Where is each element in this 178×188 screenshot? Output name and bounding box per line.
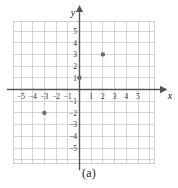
data-point	[101, 52, 105, 56]
axes	[7, 5, 168, 170]
coordinate-plane-figure: −5−4−3−2−11234554321−1−2−3−4−5 y x (a)	[0, 0, 178, 188]
x-tick-label: 4	[124, 92, 128, 101]
x-tick-label: −2	[52, 92, 60, 101]
x-tick-label: −5	[17, 92, 25, 101]
data-point	[42, 111, 46, 115]
data-point	[77, 76, 81, 80]
figure-caption: (a)	[0, 166, 178, 181]
y-tick-label: 5	[73, 27, 77, 36]
x-tick-label: 3	[113, 92, 117, 101]
y-tick-label: −4	[69, 132, 77, 141]
y-tick-label: −5	[69, 144, 77, 153]
x-axis-label: x	[167, 90, 173, 101]
y-tick-label: −1	[69, 97, 77, 106]
y-tick-label: −3	[69, 120, 77, 129]
y-axis-label: y	[70, 7, 76, 18]
y-tick-label: 3	[73, 50, 77, 59]
y-tick-label: 4	[73, 39, 77, 48]
x-tick-label: 2	[101, 92, 105, 101]
y-tick-label: −2	[69, 109, 77, 118]
y-axis-arrowhead	[76, 5, 83, 12]
coordinate-plane-chart: −5−4−3−2−11234554321−1−2−3−4−5 y x	[0, 0, 178, 188]
x-tick-label: −4	[29, 92, 37, 101]
y-tick-label: 1	[73, 74, 77, 83]
x-axis-arrowhead	[160, 86, 168, 93]
y-tick-label: 2	[73, 62, 77, 71]
x-tick-label: 1	[89, 92, 93, 101]
x-tick-label: −3	[40, 92, 48, 101]
x-tick-label: 5	[136, 92, 140, 101]
